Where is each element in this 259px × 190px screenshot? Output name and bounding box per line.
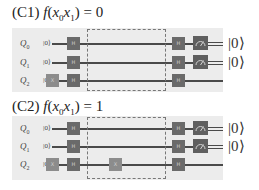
h-gate-q1-post: H <box>172 140 185 153</box>
qubit-label-q2: Q2 <box>20 75 30 89</box>
classical-wire-q1 <box>208 148 223 149</box>
classical-wire-q0 <box>208 130 223 131</box>
h-gate-q1-post: H <box>172 56 185 69</box>
qubit-label-q0: Q0 <box>20 123 30 137</box>
function-value: 1 <box>96 98 104 114</box>
panel-label: (C2) <box>12 98 40 114</box>
h-gate-q0-post: H <box>172 122 185 135</box>
init-state-q1: |0⟩ <box>43 141 51 151</box>
output-state-q1: |0⟩ <box>228 138 245 154</box>
classical-wire-q0 <box>208 127 223 128</box>
classical-wire-q0 <box>208 45 223 46</box>
equals: = <box>80 98 96 114</box>
x-gate-q2: X <box>46 74 59 87</box>
init-state-q0: |0⟩ <box>43 123 51 133</box>
init-state-q0: |0⟩ <box>43 38 51 48</box>
h-gate-q2-post: H <box>172 74 185 87</box>
classical-wire-q1 <box>208 64 223 65</box>
h-gate-q2-post: H <box>172 158 185 171</box>
h-gate-q1: H <box>67 140 80 153</box>
panel-c1-title: (C1) f(x0x1) = 0 <box>12 3 103 27</box>
circuit-c2: Q0 |0⟩ Q1 |0⟩ Q2 |0⟩ H H X H X H H H <box>12 116 223 180</box>
qubit-label-q1: Q1 <box>20 57 30 71</box>
measure-icon-q0 <box>193 36 208 50</box>
init-state-q1: |0⟩ <box>43 57 51 67</box>
h-gate-q0-post: H <box>172 37 185 50</box>
h-gate-q1: H <box>67 56 80 69</box>
output-state-q1: |0⟩ <box>228 54 245 70</box>
x-gate-q2: X <box>46 158 59 171</box>
h-gate-q0: H <box>67 122 80 135</box>
h-gate-q0: H <box>67 37 80 50</box>
classical-wire-q1 <box>208 61 223 62</box>
output-state-q0: |0⟩ <box>228 35 245 51</box>
measure-icon-q1 <box>193 55 208 69</box>
function-value: 0 <box>96 4 104 20</box>
oracle-x-gate-q2: X <box>109 158 122 171</box>
oracle-box <box>87 117 166 179</box>
qubit-label-q0: Q0 <box>20 38 30 52</box>
measure-icon-q1 <box>193 139 208 153</box>
h-gate-q2: H <box>67 158 80 171</box>
oracle-box <box>87 29 166 91</box>
h-gate-q2: H <box>67 74 80 87</box>
equals: = <box>80 4 96 20</box>
classical-wire-q1 <box>208 145 223 146</box>
circuit-c1: Q0 |0⟩ Q1 |0⟩ Q2 |0⟩ H H X H H H H <box>12 28 223 92</box>
panel-label: (C1) <box>12 4 40 20</box>
measure-icon-q0 <box>193 121 208 135</box>
classical-wire-q0 <box>208 42 223 43</box>
qubit-label-q1: Q1 <box>20 141 30 155</box>
qubit-label-q2: Q2 <box>20 159 30 173</box>
output-state-q0: |0⟩ <box>228 120 245 136</box>
